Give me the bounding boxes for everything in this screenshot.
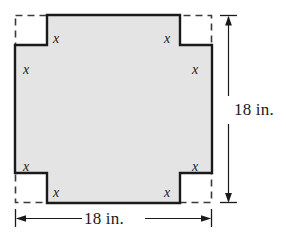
x-label-bottom-right-vertical: x bbox=[192, 160, 198, 174]
x-label-bottom-left-vertical: x bbox=[23, 160, 29, 174]
vdim-arrow-up bbox=[225, 16, 232, 26]
shaded-region bbox=[15, 15, 212, 203]
geometry-figure: 18 in. 18 in. xxxxxxxx bbox=[0, 0, 286, 238]
dimension-label-height: 18 in. bbox=[234, 100, 274, 120]
hdim-arrow-left bbox=[16, 215, 26, 222]
x-label-top-right-vertical: x bbox=[192, 63, 198, 77]
x-label-bottom-left-horizontal: x bbox=[53, 186, 59, 200]
vdim-arrow-down bbox=[225, 193, 232, 203]
x-label-bottom-right-horizontal: x bbox=[164, 186, 170, 200]
x-label-top-left-vertical: x bbox=[23, 63, 29, 77]
dimension-label-width: 18 in. bbox=[84, 209, 124, 229]
x-label-top-left-horizontal: x bbox=[53, 32, 59, 46]
hdim-arrow-right bbox=[201, 215, 211, 222]
x-label-top-right-horizontal: x bbox=[164, 32, 170, 46]
